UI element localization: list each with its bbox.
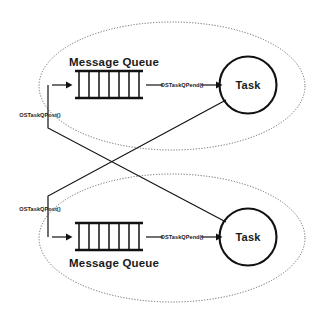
post-route-bottom-task-to-top-queue — [48, 85, 226, 222]
post-arrowhead-bottom — [66, 234, 73, 241]
post-arrow-into-bottom-queue — [52, 234, 73, 241]
task-label-top: Task — [235, 79, 261, 91]
pend-call-label-bottom: OSTaskQPend() — [161, 234, 204, 240]
queue-label-top: Message Queue — [69, 56, 159, 68]
diagram-canvas: Message Queue Task OSTaskQPend() — [0, 0, 313, 317]
message-queue-bottom — [75, 223, 143, 250]
post-route-top-task-to-bottom-queue — [48, 100, 226, 237]
post-call-label-bottom: OSTaskQPost() — [19, 206, 60, 212]
message-queue-top — [75, 71, 143, 98]
post-call-label-top: OSTaskQPost() — [19, 112, 60, 118]
post-arrow-into-top-queue — [52, 82, 73, 89]
post-arrowhead-top — [66, 82, 73, 89]
diagram-svg: Message Queue Task OSTaskQPend() — [0, 0, 313, 317]
pend-call-label-top: OSTaskQPend() — [161, 82, 204, 88]
queue-label-bottom: Message Queue — [69, 257, 159, 269]
task-label-bottom: Task — [235, 231, 261, 243]
